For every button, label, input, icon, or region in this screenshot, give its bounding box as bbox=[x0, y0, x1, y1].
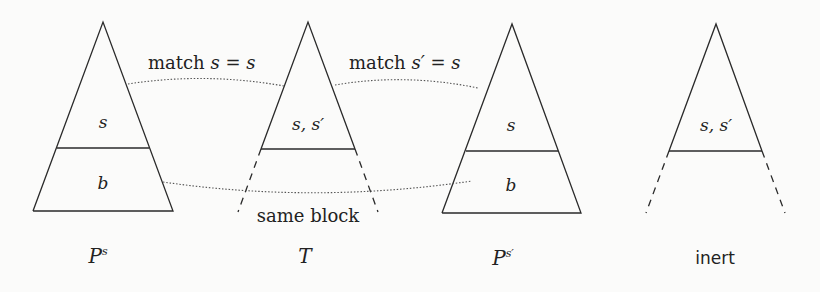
tree-ps-upper-label: s bbox=[99, 112, 108, 132]
tree-ps-lower-label: b bbox=[98, 173, 109, 193]
connection-same-block: same block bbox=[163, 181, 472, 226]
label-prefix: match bbox=[148, 52, 210, 73]
tree-t-upper-label: s, s′ bbox=[292, 114, 324, 134]
connection-match-sprime-curve bbox=[335, 80, 478, 88]
connection-match-s: match s = s bbox=[128, 52, 284, 86]
tree-psprime-caption: Ps′ bbox=[491, 246, 514, 270]
connection-match-s-curve bbox=[128, 78, 284, 86]
label-prefix: match bbox=[349, 52, 411, 73]
connection-match-s-label: match s = s bbox=[148, 52, 255, 73]
tree-psprime-upper-label: s bbox=[507, 115, 516, 135]
connection-match-sprime: match s′ = s bbox=[335, 52, 478, 88]
tree-t-dashed-left bbox=[238, 149, 261, 212]
caption-superscript: s bbox=[102, 245, 108, 258]
tree-inert-caption: inert bbox=[695, 248, 735, 268]
tree-inert: s, s′ inert bbox=[646, 24, 785, 268]
caption-main: P bbox=[87, 244, 102, 268]
tree-t-dashed-right bbox=[355, 149, 378, 212]
tree-inert-dashed-right bbox=[762, 151, 785, 213]
connection-same-block-label: same block bbox=[257, 205, 361, 226]
caption-superscript: s′ bbox=[506, 247, 515, 260]
label-math: s′ = s bbox=[411, 52, 460, 73]
tree-inert-dashed-left bbox=[646, 151, 669, 213]
connection-match-sprime-label: match s′ = s bbox=[349, 52, 461, 73]
label-math: s = s bbox=[210, 52, 255, 73]
caption-main: P bbox=[491, 246, 506, 270]
tree-psprime: s b Ps′ bbox=[442, 24, 581, 270]
tree-inert-upper-label: s, s′ bbox=[700, 115, 732, 135]
tree-ps-caption: Ps bbox=[87, 244, 107, 268]
connection-same-block-curve bbox=[163, 181, 472, 193]
tree-t-caption: T bbox=[298, 244, 313, 268]
diagram-canvas: s b Ps s, s′ T s b Ps′ s, s′ inert match… bbox=[0, 0, 820, 292]
tree-psprime-lower-label: b bbox=[506, 175, 517, 195]
